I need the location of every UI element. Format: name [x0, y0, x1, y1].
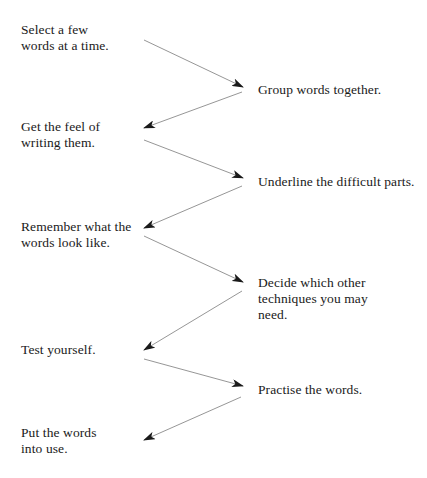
arrow-1-to-2	[144, 40, 243, 87]
arrow-7-to-8	[144, 359, 243, 386]
step-feel-of-writing: Get the feel of writing them.	[21, 119, 141, 151]
step-underline-parts: Underline the difficult parts.	[258, 174, 418, 190]
step-put-into-use: Put the words into use.	[21, 425, 141, 457]
step-practise-words: Practise the words.	[258, 382, 418, 398]
step-decide-techniques: Decide which other techniques you may ne…	[258, 275, 418, 323]
arrow-4-to-5	[144, 186, 242, 228]
arrow-3-to-4	[144, 140, 243, 178]
step-group-words: Group words together.	[258, 82, 418, 98]
arrow-8-to-9	[144, 397, 241, 440]
arrow-2-to-3	[144, 92, 242, 128]
arrow-6-to-7	[144, 291, 242, 350]
step-remember-look: Remember what the words look like.	[21, 219, 141, 251]
step-select-words: Select a few words at a time.	[21, 22, 141, 54]
step-test-yourself: Test yourself.	[21, 342, 141, 358]
arrow-5-to-6	[144, 236, 243, 282]
